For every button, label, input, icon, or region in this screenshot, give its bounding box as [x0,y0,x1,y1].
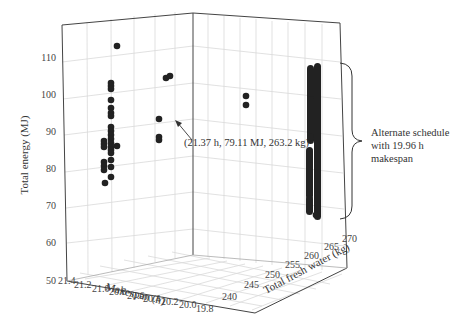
x-axis-label: Makespan (h) [104,280,166,307]
z-tick: 80 [46,163,56,174]
x-tick: 20.0 [179,299,197,310]
z-tick: 70 [46,200,56,211]
y-tick: 240 [222,291,237,302]
brace-text-line3: makespan [371,153,414,164]
z-axis-label: Total energy (MJ) [18,115,31,194]
3d-scatter-chart: 50 60 70 80 90 100 110 Total energy (MJ)… [0,0,466,318]
x-tick: 21.4 [58,275,76,286]
z-tick: 50 [46,275,56,286]
z-tick: 110 [41,52,56,63]
x-tick: 21.2 [74,279,92,290]
brace-annotation: Alternate schedule with 19.96 h makespan [340,63,450,219]
brace-text-line2: with 19.96 h [371,140,425,151]
point-annotation-text: (21.37 h, 79.11 MJ, 263.2 kg) [184,137,310,149]
z-tick: 100 [41,89,56,100]
z-tick: 60 [46,237,56,248]
z-axis-ticks: 50 60 70 80 90 100 110 [41,52,56,286]
z-tick: 90 [46,126,56,137]
y-tick: 245 [244,279,259,290]
brace-text-line1: Alternate schedule [371,127,450,138]
x-tick: 19.8 [196,303,214,314]
